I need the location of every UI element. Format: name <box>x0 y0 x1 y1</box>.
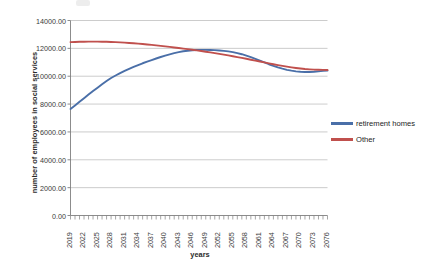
data-series-layer <box>71 42 328 109</box>
gridlines <box>71 21 328 188</box>
chart-legend: retirement homes Other <box>331 119 415 151</box>
legend-swatch-retirement-homes <box>331 122 353 125</box>
legend-label-other: Other <box>356 135 375 144</box>
line-chart: number of employees in social services y… <box>0 0 436 268</box>
legend-swatch-other <box>331 138 353 141</box>
legend-label-retirement-homes: retirement homes <box>356 119 415 128</box>
legend-item-other: Other <box>331 135 415 144</box>
series-line-retirement-homes <box>71 50 328 109</box>
legend-item-retirement-homes: retirement homes <box>331 119 415 128</box>
x-axis-ticks <box>71 216 328 220</box>
series-line-other <box>71 42 328 70</box>
